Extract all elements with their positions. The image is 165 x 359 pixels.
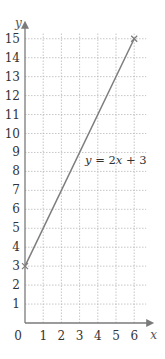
y-tick-label: 6 xyxy=(12,202,20,216)
gridlines xyxy=(25,33,146,323)
y-axis-arrow-icon xyxy=(21,21,29,29)
y-tick-label: 4 xyxy=(12,240,20,254)
x-axis-label: x xyxy=(150,328,157,342)
origin-label: 0 xyxy=(14,329,22,343)
y-tick-label: 9 xyxy=(12,145,20,159)
x-tick-label: 2 xyxy=(58,329,66,343)
y-tick-label: 3 xyxy=(12,259,20,273)
y-tick-label: 11 xyxy=(5,108,20,122)
x-tick-label: 6 xyxy=(130,329,138,343)
y-tick-label: 14 xyxy=(5,51,21,65)
y-tick-label: 10 xyxy=(5,127,20,141)
line-chart: yx1234567891011121314151234560 y = 2x + … xyxy=(0,0,165,359)
y-tick-label: 2 xyxy=(12,278,20,292)
y-tick-label: 12 xyxy=(5,89,20,103)
x-tick-label: 5 xyxy=(112,329,120,343)
x-axis-arrow-icon xyxy=(146,319,154,327)
y-tick-label: 13 xyxy=(5,70,20,84)
annotations: y = 2x + 3 xyxy=(84,153,147,167)
y-tick-label: 8 xyxy=(12,164,20,178)
x-tick-label: 3 xyxy=(76,329,84,343)
x-tick-label: 1 xyxy=(39,329,47,343)
y-tick-label: 7 xyxy=(12,183,20,197)
y-tick-label: 1 xyxy=(12,297,20,311)
equation-label: y = 2x + 3 xyxy=(84,153,147,167)
y-axis-label: y xyxy=(14,16,22,30)
y-tick-label: 15 xyxy=(5,32,20,46)
x-tick-label: 4 xyxy=(94,329,102,343)
y-tick-label: 5 xyxy=(12,221,20,235)
